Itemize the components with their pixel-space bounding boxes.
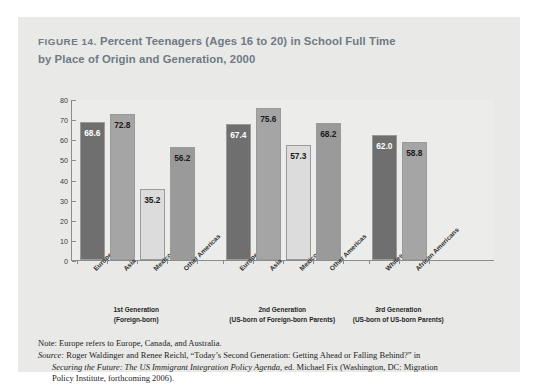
bar-value-label: 75.6 bbox=[257, 114, 280, 124]
bar: 68.2 bbox=[316, 123, 341, 260]
plot-area: 0102030405060708068.6Europe72.8Asia35.2M… bbox=[71, 100, 494, 261]
y-tick-label: 30 bbox=[60, 196, 68, 205]
bar: 57.3 bbox=[286, 145, 311, 260]
source-continuation: Securing the Future: The US Immigrant In… bbox=[38, 362, 506, 373]
figure-title: FIGURE 14. Percent Teenagers (Ages 16 to… bbox=[38, 33, 503, 67]
bar: 72.8 bbox=[110, 114, 135, 261]
y-tick-label: 70 bbox=[60, 116, 68, 125]
bar-value-label: 67.4 bbox=[227, 130, 250, 140]
x-tick-mark bbox=[167, 260, 168, 264]
x-tick-mark bbox=[429, 260, 430, 264]
bar-value-label: 57.3 bbox=[287, 151, 310, 161]
bar: 68.6 bbox=[80, 122, 105, 260]
x-tick-mark bbox=[399, 260, 400, 264]
y-tick-mark bbox=[72, 100, 76, 101]
x-tick-mark bbox=[253, 260, 254, 264]
bar-value-label: 72.8 bbox=[111, 120, 134, 130]
bar: 75.6 bbox=[256, 108, 281, 260]
source-italic-title: Securing the Future: The US Immigrant In… bbox=[52, 362, 280, 372]
y-tick-mark bbox=[72, 160, 76, 161]
y-tick-label: 20 bbox=[60, 216, 68, 225]
bar: 67.4 bbox=[226, 124, 251, 260]
y-tick-mark bbox=[72, 201, 76, 202]
y-tick-mark bbox=[72, 140, 76, 141]
bar: 35.2 bbox=[140, 189, 165, 260]
bar-value-label: 35.2 bbox=[141, 195, 164, 205]
y-tick-mark bbox=[72, 221, 76, 222]
x-tick-mark bbox=[369, 260, 370, 264]
figure-panel: FIGURE 14. Percent Teenagers (Ages 16 to… bbox=[18, 17, 520, 372]
y-tick-mark bbox=[72, 181, 76, 182]
y-tick-mark bbox=[72, 241, 76, 242]
source-text-2: , ed. Michael Fix (Washington, DC: Migra… bbox=[280, 362, 438, 372]
source-continuation-2: Policy Institute, forthcoming 2006). bbox=[38, 373, 506, 384]
y-tick-mark bbox=[72, 261, 76, 262]
figure-title-line2: by Place of Origin and Generation, 2000 bbox=[38, 53, 255, 65]
bar-value-label: 68.2 bbox=[317, 129, 340, 139]
y-tick-label: 10 bbox=[60, 236, 68, 245]
y-tick-label: 60 bbox=[60, 136, 68, 145]
x-tick-mark bbox=[197, 260, 198, 264]
bar: 58.8 bbox=[402, 142, 427, 260]
bar: 62.0 bbox=[372, 135, 397, 260]
bar-value-label: 62.0 bbox=[373, 141, 396, 151]
bar: 56.2 bbox=[170, 147, 195, 260]
y-tick-label: 80 bbox=[60, 96, 68, 105]
figure-title-line1: Percent Teenagers (Ages 16 to 20) in Sch… bbox=[97, 35, 396, 47]
figure-number: FIGURE 14. bbox=[38, 36, 97, 47]
bar-value-label: 68.6 bbox=[81, 128, 104, 138]
x-tick-mark bbox=[223, 260, 224, 264]
x-tick-mark bbox=[313, 260, 314, 264]
note-line: Note: Europe refers to Europe, Canada, a… bbox=[38, 338, 506, 349]
generation-group-label-line1: 1st Generation bbox=[56, 305, 216, 315]
y-tick-label: 0 bbox=[64, 257, 68, 266]
figure-notes: Note: Europe refers to Europe, Canada, a… bbox=[38, 338, 506, 386]
generation-group-label-line2: (Foreign-born) bbox=[56, 315, 216, 325]
bar-value-label: 56.2 bbox=[171, 153, 194, 163]
generation-group-label: 3rd Generation(US-born of US-born Parent… bbox=[318, 305, 478, 324]
source-line: Source: Roger Waldinger and Renee Reichl… bbox=[38, 350, 506, 384]
y-tick-label: 50 bbox=[60, 156, 68, 165]
y-tick-label: 40 bbox=[60, 176, 68, 185]
generation-group-label: 1st Generation(Foreign-born) bbox=[56, 305, 216, 324]
x-tick-mark bbox=[283, 260, 284, 264]
bar-chart: 0102030405060708068.6Europe72.8Asia35.2M… bbox=[38, 78, 503, 336]
source-text-1: Roger Waldinger and Renee Reichl, “Today… bbox=[64, 350, 420, 360]
generation-group-label-line2: (US-born of US-born Parents) bbox=[318, 315, 478, 325]
x-tick-mark bbox=[107, 260, 108, 264]
y-tick-mark bbox=[72, 120, 76, 121]
x-tick-mark bbox=[343, 260, 344, 264]
generation-group-label-line1: 3rd Generation bbox=[318, 305, 478, 315]
x-tick-mark bbox=[137, 260, 138, 264]
x-tick-mark bbox=[77, 260, 78, 264]
bar-value-label: 58.8 bbox=[403, 148, 426, 158]
source-label: Source: bbox=[38, 350, 64, 360]
